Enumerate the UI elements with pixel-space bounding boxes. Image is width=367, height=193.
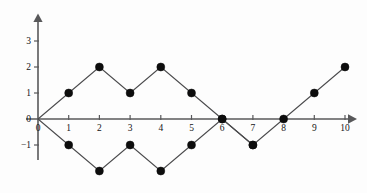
data-point-upper-path-2: [95, 63, 103, 71]
x-axis-ticks: 012345678910: [36, 115, 350, 133]
data-point-upper-path-4: [157, 63, 165, 71]
data-point-upper-path-1: [65, 89, 73, 97]
x-tick-label-8: 8: [281, 123, 286, 133]
data-point-upper-path-8: [280, 115, 288, 123]
data-point-upper-path-9: [310, 89, 318, 97]
y-tick-label-1: 1: [26, 88, 31, 98]
data-point-upper-path-5: [188, 89, 196, 97]
lattice-path-chart: 012345678910 −10123: [0, 0, 367, 193]
y-tick-label-2: 2: [26, 62, 31, 72]
x-tick-label-1: 1: [66, 123, 71, 133]
x-tick-label-6: 6: [220, 123, 225, 133]
y-axis-arrow-icon: [33, 14, 42, 23]
plot-area: 012345678910 −10123: [0, 0, 367, 193]
x-tick-label-3: 3: [128, 123, 133, 133]
x-tick-label-7: 7: [251, 123, 256, 133]
data-point-upper-path-10: [341, 63, 349, 71]
data-point-lower-path-4: [157, 167, 165, 175]
y-tick-label-0: 0: [26, 114, 31, 124]
y-tick-label-3: 3: [26, 36, 31, 46]
y-tick-label-−1: −1: [21, 140, 31, 150]
data-point-lower-path-3: [126, 141, 134, 149]
x-tick-label-0: 0: [36, 123, 41, 133]
polyline-upper-path: [38, 67, 345, 145]
series-upper-path: [38, 63, 349, 149]
data-point-lower-path-5: [188, 141, 196, 149]
data-point-lower-path-1: [65, 141, 73, 149]
data-point-lower-path-7: [249, 141, 257, 149]
data-point-lower-path-6: [218, 115, 226, 123]
data-point-lower-path-2: [95, 167, 103, 175]
x-tick-label-2: 2: [97, 123, 102, 133]
x-tick-label-4: 4: [158, 123, 163, 133]
y-axis-ticks: −10123: [21, 36, 39, 150]
x-tick-label-5: 5: [189, 123, 194, 133]
x-tick-label-9: 9: [312, 123, 317, 133]
x-tick-label-10: 10: [340, 123, 350, 133]
data-point-upper-path-3: [126, 89, 134, 97]
